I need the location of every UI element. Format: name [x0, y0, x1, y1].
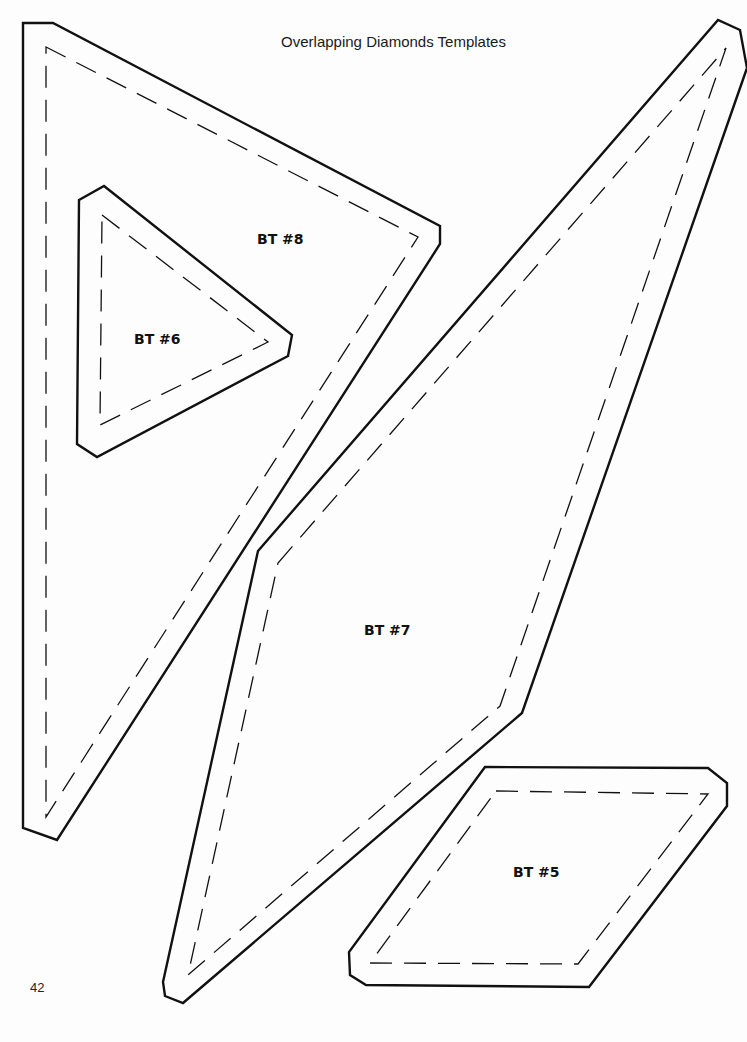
template-label-bt8: BT #8	[257, 231, 304, 247]
template-cut-line-bt7	[163, 20, 747, 1003]
template-cut-line-bt8	[23, 23, 440, 840]
template-label-bt6: BT #6	[134, 331, 181, 347]
template-page: Overlapping Diamonds Templates BT #8 BT …	[0, 0, 747, 1042]
template-label-bt5: BT #5	[513, 864, 560, 880]
template-cut-line-bt6	[77, 186, 292, 457]
page-title: Overlapping Diamonds Templates	[0, 33, 747, 50]
page-number: 42	[30, 980, 44, 995]
template-label-bt7: BT #7	[364, 622, 411, 638]
templates-drawing	[0, 0, 747, 1042]
template-sew-line-bt6	[100, 215, 268, 425]
